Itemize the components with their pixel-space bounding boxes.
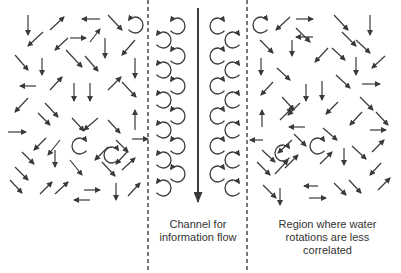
correlated-rotations-left-column (157, 18, 185, 196)
dipole-arrow-icon (122, 82, 136, 97)
dipole-arrow-icon (40, 182, 52, 194)
dipole-arrow-icon (15, 167, 28, 180)
region-label-line-1: Region where water (255, 218, 400, 231)
dipole-arrow-icon (66, 50, 82, 67)
rotation-arrow-icon (171, 166, 185, 182)
dipole-arrow-icon (128, 183, 140, 196)
dipole-arrow-icon (15, 98, 28, 112)
region-label-line-2: rotations are less (255, 231, 400, 244)
rotation-arrow-icon (157, 32, 171, 48)
channel-label: Channel for information flow (150, 218, 246, 244)
dipole-arrow-icon (350, 112, 362, 125)
dipole-arrow-icon (48, 140, 60, 155)
dipole-arrow-icon (22, 152, 34, 164)
rotation-arrow-icon (157, 122, 171, 138)
left-region-random-arrows (8, 15, 148, 200)
dipole-arrow-icon (323, 128, 337, 140)
dipole-arrow-icon (38, 113, 50, 125)
dipole-arrow-icon (332, 48, 345, 60)
dipole-arrow-icon (294, 134, 306, 146)
dipole-arrow-icon (15, 55, 28, 70)
rotation-arrow-icon (225, 122, 239, 138)
rotation-arrow-icon (171, 18, 185, 34)
dipole-arrow-icon (122, 40, 135, 55)
rotation-arrow-icon (72, 138, 86, 154)
dipole-arrow-icon (102, 162, 115, 176)
region-label-line-3: correlated (255, 244, 400, 257)
dipole-arrow-icon (122, 158, 135, 170)
rotation-arrow-icon (210, 166, 224, 182)
dipole-arrow-icon (372, 140, 384, 152)
dipole-arrow-icon (261, 82, 273, 95)
dipole-arrow-icon (90, 29, 100, 42)
rotation-arrow-icon (225, 180, 239, 196)
rotation-arrow-icon (210, 108, 224, 124)
dipole-arrow-icon (10, 180, 22, 193)
dipole-arrow-icon (334, 15, 348, 30)
dipole-arrow-icon (360, 97, 373, 110)
dipole-arrow-icon (34, 138, 46, 150)
rotation-arrow-icon (129, 17, 143, 33)
right-region-random-arrows (250, 15, 390, 205)
rotation-arrow-icon (157, 152, 171, 168)
dipole-arrow-icon (280, 108, 292, 120)
rotation-arrow-icon (225, 152, 239, 168)
rotation-arrow-icon (210, 138, 224, 154)
rotation-arrow-icon (225, 62, 239, 78)
dipole-arrow-icon (95, 147, 108, 160)
dipole-arrow-icon (55, 38, 68, 50)
dipole-arrow-icon (336, 75, 350, 88)
rotation-arrow-icon (210, 48, 224, 64)
dipole-arrow-icon (326, 102, 338, 114)
correlated-rotations-right-column (210, 18, 239, 196)
dipole-arrow-icon (50, 77, 62, 90)
rotation-arrow-icon (171, 108, 185, 124)
dipole-arrow-icon (296, 28, 310, 42)
dipole-arrow-icon (315, 48, 328, 62)
dipole-arrow-icon (85, 56, 98, 71)
rotation-arrow-icon (225, 32, 239, 48)
dipole-arrow-icon (356, 40, 370, 53)
dipole-arrow-icon (277, 68, 290, 80)
rotation-arrow-icon (171, 138, 185, 154)
rotation-arrow-icon (275, 145, 289, 161)
region-label: Region where water rotations are less co… (255, 218, 400, 257)
dipole-arrow-icon (108, 120, 120, 133)
dipole-arrow-icon (28, 32, 43, 46)
rotation-arrow-icon (210, 18, 224, 34)
dipole-arrow-icon (262, 150, 275, 162)
dipole-arrow-icon (70, 160, 82, 175)
dipole-arrow-icon (376, 112, 388, 125)
channel-label-line-2: information flow (150, 231, 246, 244)
dipole-arrow-icon (45, 103, 58, 117)
dipole-arrow-icon (50, 17, 64, 30)
dipole-arrow-icon (263, 185, 276, 198)
dipole-arrow-icon (352, 146, 366, 159)
dipole-arrow-icon (372, 56, 385, 68)
rotation-arrow-icon (210, 78, 224, 94)
channel-label-line-1: Channel for (150, 218, 246, 231)
dipole-arrow-icon (276, 17, 290, 30)
rotation-arrow-icon (157, 62, 171, 78)
dipole-arrow-icon (378, 178, 390, 190)
dipole-arrow-icon (278, 140, 292, 153)
rotation-arrow-icon (171, 48, 185, 64)
dipole-arrow-icon (108, 15, 122, 30)
rotation-arrow-icon (157, 92, 171, 108)
dipole-arrow-icon (257, 162, 270, 175)
rotation-arrow-icon (253, 17, 267, 33)
rotation-arrow-icon (310, 138, 324, 154)
dipole-arrow-icon (260, 40, 273, 53)
rotation-arrow-icon (225, 92, 239, 108)
rotation-arrow-icon (157, 180, 171, 196)
dipole-arrow-icon (108, 77, 121, 90)
dipole-arrow-icon (349, 180, 361, 193)
rotation-arrow-icon (171, 78, 185, 94)
dipole-arrow-icon (370, 163, 381, 175)
dipole-arrow-icon (282, 97, 294, 110)
dipole-arrow-icon (342, 32, 356, 46)
dipole-arrow-icon (334, 183, 346, 195)
dipole-arrow-icon (55, 182, 68, 194)
dipole-arrow-icon (116, 151, 128, 164)
dipole-arrow-icon (72, 118, 84, 131)
